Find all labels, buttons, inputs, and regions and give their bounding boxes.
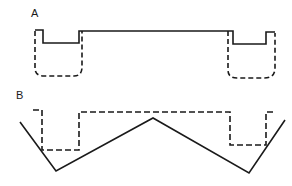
diagram-canvas <box>0 0 292 186</box>
panel-a-solid-profile <box>35 30 275 44</box>
panel-b <box>20 110 285 173</box>
panel-b-dashed-profile <box>33 110 275 150</box>
panel-a-dashed-left-profile <box>35 31 82 76</box>
panel-b-solid-zigzag <box>20 118 285 173</box>
panel-a-dashed-right-profile <box>228 31 275 78</box>
panel-a <box>35 30 275 78</box>
